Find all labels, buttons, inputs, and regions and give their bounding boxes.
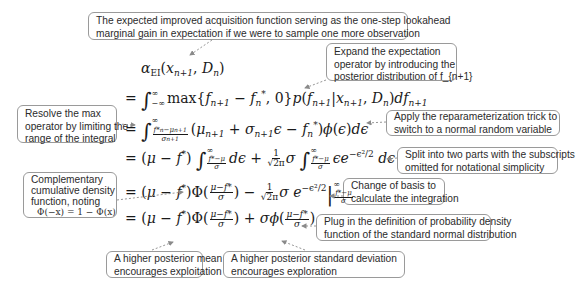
- arrow-resolve-to-line2: [118, 124, 135, 125]
- arrow-std-to-line5: [282, 241, 305, 250]
- arrow-apply-to-line2: [367, 122, 386, 123]
- arrow-top-to-alpha: [190, 40, 212, 55]
- arrow-expand-to-line1: [305, 80, 326, 88]
- arrow-complementary-to-line4: [117, 192, 183, 200]
- arrow-mean-to-line5: [152, 242, 173, 250]
- connector-arrows: [0, 0, 583, 291]
- arrow-split-to-line3: [387, 158, 397, 159]
